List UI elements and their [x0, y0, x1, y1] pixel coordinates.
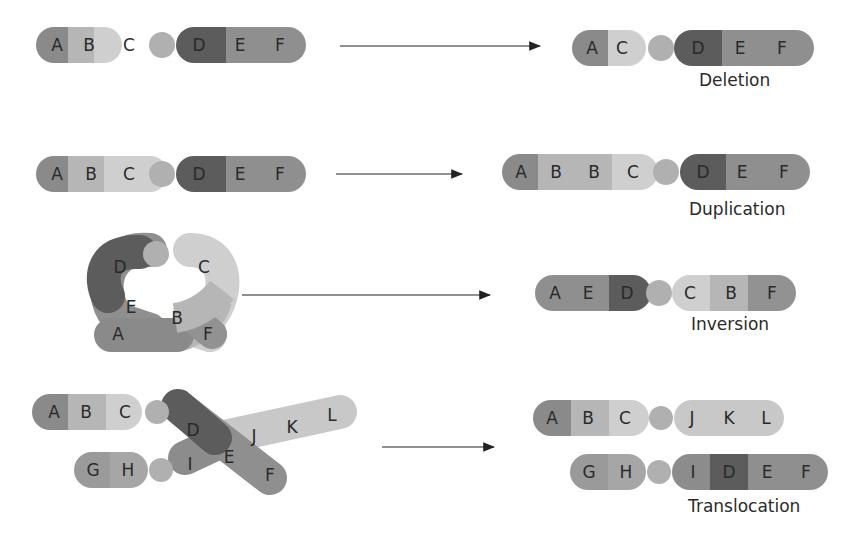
svg-text:B: B — [80, 402, 92, 422]
svg-text:B: B — [85, 164, 97, 184]
svg-text:F: F — [777, 38, 787, 58]
svg-text:A: A — [515, 162, 527, 182]
svg-text:E: E — [126, 297, 137, 317]
svg-text:A: A — [586, 38, 598, 58]
caption-inversion: Inversion — [691, 314, 769, 334]
svg-text:E: E — [235, 164, 246, 184]
svg-text:E: E — [762, 462, 773, 482]
svg-text:B: B — [582, 408, 594, 428]
svg-text:A: A — [48, 402, 60, 422]
svg-text:J: J — [688, 408, 694, 428]
svg-text:K: K — [723, 408, 735, 428]
svg-text:B: B — [588, 162, 600, 182]
svg-text:C: C — [684, 283, 696, 303]
svg-text:C: C — [123, 164, 135, 184]
translocation-after: ABC JKL GH IDEF — [533, 400, 828, 490]
translocation-before: ABC GH DI EF JKL — [32, 394, 340, 488]
caption-duplication: Duplication — [689, 199, 785, 219]
svg-text:E: E — [737, 162, 748, 182]
svg-text:I: I — [690, 462, 695, 482]
svg-text:L: L — [327, 405, 337, 425]
centromere — [149, 32, 175, 58]
deletion-before-chromosome: ABC DEF — [36, 27, 306, 63]
svg-text:B: B — [171, 308, 183, 328]
inversion-before-loop: DC EB AF — [94, 241, 223, 352]
svg-text:C: C — [616, 38, 628, 58]
inversion-after-chromosome: AED CBF — [535, 275, 796, 311]
svg-text:A: A — [546, 408, 558, 428]
caption-translocation: Translocation — [688, 496, 800, 516]
svg-text:B: B — [550, 162, 562, 182]
svg-text:I: I — [187, 454, 192, 474]
svg-text:A: A — [51, 35, 63, 55]
svg-text:C: C — [619, 408, 631, 428]
svg-text:F: F — [275, 35, 285, 55]
svg-text:B: B — [725, 283, 737, 303]
svg-text:D: D — [192, 164, 205, 184]
svg-text:F: F — [203, 324, 213, 344]
svg-text:F: F — [265, 465, 275, 485]
svg-text:L: L — [761, 408, 771, 428]
caption-deletion: Deletion — [699, 70, 770, 90]
deletion-after-chromosome: AC DEF — [572, 30, 814, 66]
svg-text:F: F — [801, 462, 811, 482]
svg-text:G: G — [86, 460, 99, 480]
svg-text:F: F — [767, 283, 777, 303]
svg-text:C: C — [198, 257, 210, 277]
svg-text:D: D — [620, 283, 633, 303]
svg-text:D: D — [192, 35, 205, 55]
duplication-before-chromosome: ABC DEF — [36, 156, 306, 192]
svg-text:C: C — [627, 162, 639, 182]
chromosome-mutation-diagram: ABC DEF AC DEF ABC DEF ABBC DEF DC EB — [0, 0, 860, 534]
svg-text:A: A — [51, 164, 63, 184]
svg-text:C: C — [119, 402, 131, 422]
svg-text:D: D — [691, 38, 704, 58]
svg-text:E: E — [735, 38, 746, 58]
svg-text:H: H — [122, 460, 135, 480]
svg-text:D: D — [696, 162, 709, 182]
svg-text:A: A — [549, 283, 561, 303]
svg-text:D: D — [722, 462, 735, 482]
svg-text:E: E — [224, 447, 235, 467]
svg-text:F: F — [275, 164, 285, 184]
svg-text:G: G — [582, 462, 595, 482]
svg-text:F: F — [779, 162, 789, 182]
svg-text:A: A — [112, 324, 124, 344]
svg-text:D: D — [113, 257, 126, 277]
svg-text:B: B — [83, 35, 95, 55]
svg-text:E: E — [235, 35, 246, 55]
svg-text:J: J — [250, 426, 256, 446]
duplication-after-chromosome: ABBC DEF — [502, 154, 810, 190]
svg-text:K: K — [286, 417, 298, 437]
svg-text:H: H — [620, 462, 633, 482]
svg-text:E: E — [583, 283, 594, 303]
svg-text:C: C — [123, 35, 135, 55]
svg-text:D: D — [186, 420, 199, 440]
